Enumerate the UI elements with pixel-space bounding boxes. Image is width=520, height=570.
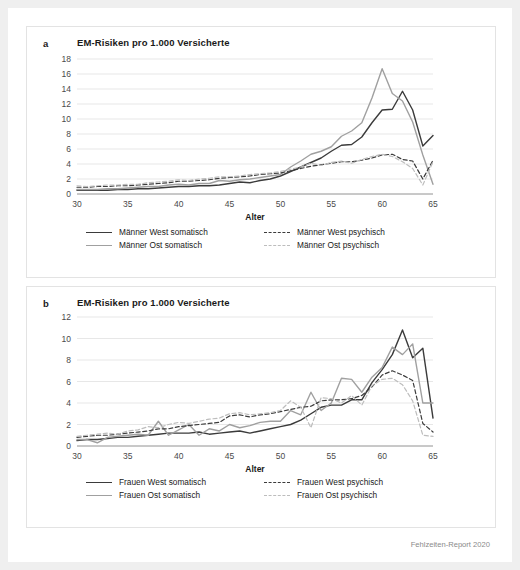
legend-item-frauen-west-somatisch: Frauen West somatisch [86,477,264,487]
y-axis-tick: 0 [66,441,71,451]
legend-label: Frauen West somatisch [119,477,206,487]
y-axis-tick: 2 [66,174,71,184]
y-axis-tick: 0 [66,189,71,199]
legend-label: Männer Ost somatisch [119,240,202,250]
y-axis-tick: 6 [66,377,71,387]
x-axis-tick: 55 [327,451,337,461]
source-note: Fehlzeiten-Report 2020 [411,540,490,549]
series-line [77,69,433,190]
legend-item-maenner-ost-somatisch: Männer Ost somatisch [86,240,264,250]
legend-item-frauen-west-psychisch: Frauen West psychisch [264,477,436,487]
legend-item-maenner-ost-psychisch: Männer Ost psychisch [264,240,436,250]
y-axis-tick: 6 [66,144,71,154]
x-axis-label: Alter [245,212,265,222]
y-axis-tick: 18 [62,54,72,64]
x-axis-tick: 40 [174,199,184,209]
legend-label: Frauen West psychisch [297,477,383,487]
line-swatch-dashed-gray-icon [264,241,290,250]
series-line [77,378,433,436]
y-axis-tick: 12 [62,312,72,322]
x-axis-tick: 30 [72,199,82,209]
legend-label: Männer West somatisch [119,227,208,237]
panel-b-chart-svg: 0246810123035404550556065Alter [27,287,495,479]
x-axis-tick: 35 [123,199,133,209]
y-axis-tick: 8 [66,129,71,139]
x-axis-label: Alter [245,464,265,474]
legend-label: Männer West psychisch [297,227,385,237]
x-axis-tick: 45 [225,199,235,209]
line-swatch-solid-dark-icon [86,478,112,487]
y-axis-tick: 2 [66,420,71,430]
legend-label: Frauen Ost psychisch [297,490,377,500]
y-axis-tick: 4 [66,159,71,169]
x-axis-tick: 65 [428,451,438,461]
x-axis-tick: 35 [123,451,133,461]
series-line [77,344,433,443]
y-axis-tick: 4 [66,398,71,408]
chart-panel-a: a EM-Risiken pro 1.000 Versicherte 02468… [26,26,496,278]
x-axis-tick: 65 [428,199,438,209]
x-axis-tick: 60 [377,199,387,209]
legend-item-maenner-west-somatisch: Männer West somatisch [86,227,264,237]
y-axis-tick: 8 [66,355,71,365]
x-axis-tick: 30 [72,451,82,461]
x-axis-tick: 50 [276,199,286,209]
line-swatch-solid-gray-icon [86,241,112,250]
legend-row: Männer West somatisch Männer West psychi… [27,227,495,237]
y-axis-tick: 12 [62,99,72,109]
panel-a-chart-svg: 0246810121416183035404550556065Alter [27,27,495,227]
line-swatch-solid-dark-icon [86,228,112,237]
report-card: a EM-Risiken pro 1.000 Versicherte 02468… [8,8,512,562]
legend-row: Frauen West somatisch Frauen West psychi… [27,477,495,487]
y-axis-tick: 10 [62,114,72,124]
line-swatch-dashed-gray-icon [264,491,290,500]
line-swatch-dashed-dark-icon [264,228,290,237]
panel-b-legend: Frauen West somatisch Frauen West psychi… [27,477,495,503]
legend-label: Frauen Ost somatisch [119,490,200,500]
chart-panel-b: b EM-Risiken pro 1.000 Versicherte 02468… [26,286,496,528]
x-axis-tick: 60 [377,451,387,461]
x-axis-tick: 40 [174,451,184,461]
x-axis-tick: 45 [225,451,235,461]
x-axis-tick: 55 [327,199,337,209]
line-swatch-solid-gray-icon [86,491,112,500]
y-axis-tick: 14 [62,84,72,94]
legend-item-maenner-west-psychisch: Männer West psychisch [264,227,436,237]
legend-item-frauen-ost-somatisch: Frauen Ost somatisch [86,490,264,500]
y-axis-tick: 10 [62,334,72,344]
y-axis-tick: 16 [62,69,72,79]
legend-item-frauen-ost-psychisch: Frauen Ost psychisch [264,490,436,500]
panel-a-legend: Männer West somatisch Männer West psychi… [27,227,495,253]
x-axis-tick: 50 [276,451,286,461]
legend-row: Frauen Ost somatisch Frauen Ost psychisc… [27,490,495,500]
legend-row: Männer Ost somatisch Männer Ost psychisc… [27,240,495,250]
line-swatch-dashed-dark-icon [264,478,290,487]
legend-label: Männer Ost psychisch [297,240,379,250]
